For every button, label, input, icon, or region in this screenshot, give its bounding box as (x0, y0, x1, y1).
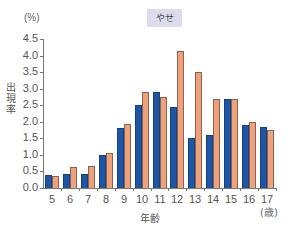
x-tick-label: 8 (97, 193, 115, 205)
y-tick (40, 56, 43, 57)
bar-series-orange-10 (142, 92, 149, 188)
bar-series-orange-7 (88, 166, 95, 188)
y-tick (40, 138, 43, 139)
x-tick-label: 7 (79, 193, 97, 205)
bar-series-orange-9 (124, 124, 131, 188)
x-tick-label: 15 (222, 193, 240, 205)
bar-series-blue-8 (99, 155, 106, 188)
x-tick (222, 188, 223, 191)
y-tick-label: 1.5 (8, 131, 38, 143)
bar-series-blue-10 (135, 105, 142, 188)
x-tick-label: 14 (204, 193, 222, 205)
x-tick-label: 13 (186, 193, 204, 205)
bar-series-blue-5 (45, 175, 52, 188)
bar-series-blue-13 (188, 138, 195, 188)
x-tick-label: 10 (133, 193, 151, 205)
x-tick-label: 5 (43, 193, 61, 205)
x-tick (276, 188, 277, 191)
bar-series-blue-11 (153, 92, 160, 188)
x-tick (258, 188, 259, 191)
y-tick (40, 39, 43, 40)
bar-series-orange-17 (267, 130, 274, 188)
x-tick-label: 12 (168, 193, 186, 205)
x-tick (168, 188, 169, 191)
x-tick (240, 188, 241, 191)
y-unit-label: (%) (24, 12, 40, 23)
y-tick (40, 72, 43, 73)
x-tick (61, 188, 62, 191)
x-tick (133, 188, 134, 191)
y-tick-label: 0.0 (8, 181, 38, 193)
bar-series-orange-13 (195, 72, 202, 188)
y-tick-label: 1.0 (8, 148, 38, 160)
bar-series-blue-17 (260, 127, 267, 188)
y-tick (40, 171, 43, 172)
y-tick-label: 2.5 (8, 98, 38, 110)
x-tick-label: 6 (61, 193, 79, 205)
bar-series-blue-15 (224, 99, 231, 188)
y-tick-label: 4.0 (8, 49, 38, 61)
bar-series-orange-6 (70, 167, 77, 188)
x-tick (186, 188, 187, 191)
x-tick-label: 11 (151, 193, 169, 205)
y-tick (40, 89, 43, 90)
chart-title-badge: やせ (147, 9, 182, 27)
x-tick (151, 188, 152, 191)
bar-series-orange-14 (213, 99, 220, 188)
y-tick-label: 3.0 (8, 82, 38, 94)
bar-series-orange-11 (160, 97, 167, 188)
y-axis (43, 39, 44, 189)
y-tick-label: 2.0 (8, 115, 38, 127)
x-tick (115, 188, 116, 191)
y-tick (40, 155, 43, 156)
x-tick-label: 16 (240, 193, 258, 205)
x-axis-label: 年齢 (140, 210, 160, 225)
x-tick-label: 9 (115, 193, 133, 205)
x-unit-label: (歳) (260, 204, 278, 219)
bar-series-blue-14 (206, 135, 213, 188)
bar-series-blue-7 (81, 174, 88, 188)
bar-series-blue-9 (117, 128, 124, 188)
y-tick-label: 4.5 (8, 32, 38, 44)
bar-series-blue-6 (63, 174, 70, 188)
y-tick (40, 122, 43, 123)
bar-series-orange-5 (52, 176, 59, 188)
bar-series-blue-16 (242, 125, 249, 188)
x-axis (43, 188, 276, 189)
bar-series-orange-12 (177, 51, 184, 188)
bar-series-orange-8 (106, 153, 113, 188)
y-tick-label: 0.5 (8, 164, 38, 176)
x-tick (204, 188, 205, 191)
y-tick (40, 188, 43, 189)
x-tick (79, 188, 80, 191)
bar-series-blue-12 (170, 107, 177, 188)
y-tick-label: 3.5 (8, 65, 38, 77)
y-tick (40, 105, 43, 106)
bar-series-orange-15 (231, 99, 238, 188)
bar-series-orange-16 (249, 122, 256, 188)
x-tick (97, 188, 98, 191)
